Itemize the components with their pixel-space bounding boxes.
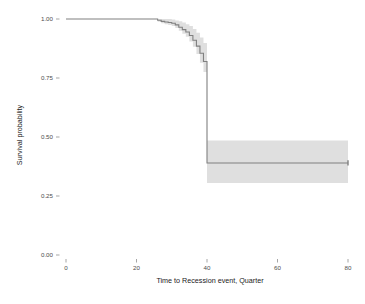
- y-tick-label: 1.00: [41, 15, 54, 22]
- y-axis-title: Survival probability: [15, 104, 24, 165]
- survival-plot-svg: 0.000.250.500.751.00 020406080 Survival …: [0, 0, 365, 304]
- y-tick-label: 0.50: [41, 133, 54, 140]
- x-tick-label: 0: [64, 264, 68, 271]
- survival-curve-figure: 0.000.250.500.751.00 020406080 Survival …: [0, 0, 365, 304]
- x-tick-label: 40: [204, 264, 211, 271]
- x-tick-label: 60: [274, 264, 281, 271]
- y-tick-label: 0.25: [41, 192, 54, 199]
- x-tick-label: 20: [133, 264, 140, 271]
- x-tick-label: 80: [345, 264, 352, 271]
- plot-panel-background: [60, 12, 360, 258]
- x-axis-title: Time to Recession event, Quarter: [156, 276, 264, 285]
- y-tick-label: 0.00: [41, 251, 54, 258]
- y-tick-label: 0.75: [41, 74, 54, 81]
